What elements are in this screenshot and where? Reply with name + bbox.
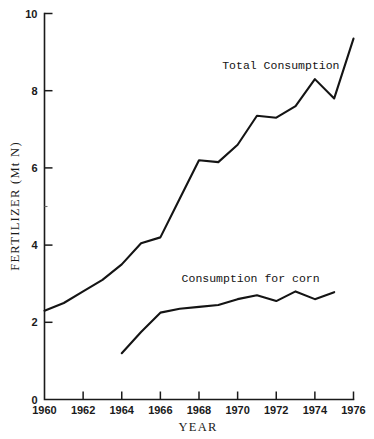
x-tick-label-1974: 1974 [303,404,328,416]
x-tick-label-1960: 1960 [32,404,56,416]
y-tick-label-8: 8 [31,85,37,97]
chart-container: 0246810 19601962196419661968197019721974… [0,0,374,439]
fertilizer-consumption-line-chart: 0246810 19601962196419661968197019721974… [0,0,374,439]
x-tick-label-1964: 1964 [110,404,135,416]
y-tick-label-4: 4 [31,239,38,251]
series-label-0: Total Consumption [222,59,339,72]
y-tick-label-6: 6 [31,162,37,174]
x-tick-label-1976: 1976 [341,404,365,416]
y-axis-title: FERTILIZER (Mt N) [8,141,22,271]
x-tick-label-1966: 1966 [148,404,172,416]
series-label-1: Consumption for corn [182,272,320,285]
x-axis-tick-labels: 196019621964196619681970197219741976 [32,404,365,416]
y-tick-label-10: 10 [25,8,37,20]
x-tick-label-1962: 1962 [71,404,95,416]
x-tick-label-1970: 1970 [225,404,249,416]
x-tick-label-1972: 1972 [264,404,288,416]
series-line-0 [45,39,354,311]
y-tick-label-2: 2 [31,316,37,328]
x-tick-label-1968: 1968 [187,404,211,416]
y-axis-tick-labels: 0246810 [25,8,38,406]
x-axis-title: YEAR [178,420,217,434]
chart-series-annotations: Total ConsumptionConsumption for corn [182,59,340,284]
series-line-1 [122,291,334,353]
chart-series-lines [45,39,354,354]
